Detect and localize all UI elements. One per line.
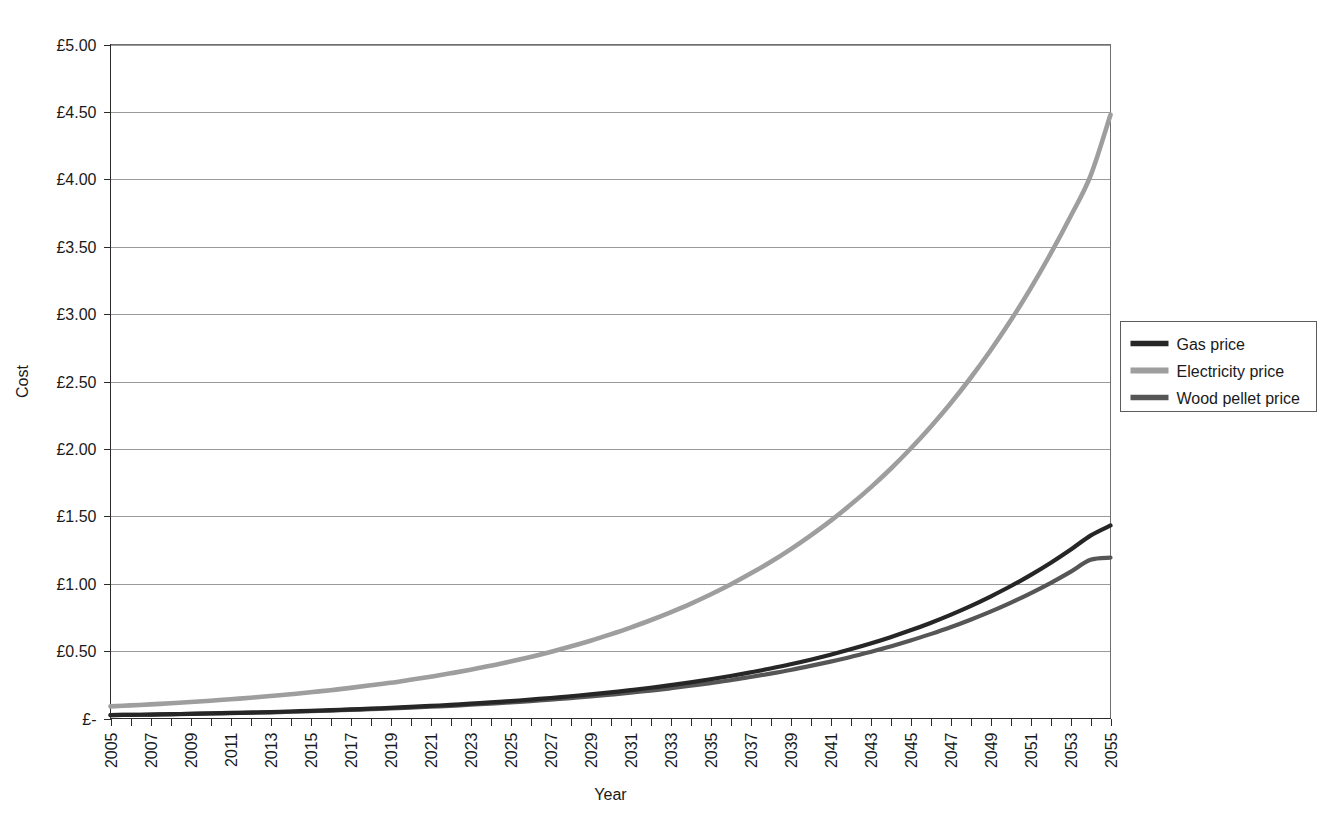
y-axis-tick-label: £4.00 bbox=[56, 171, 96, 188]
x-axis-tick-label: 2035 bbox=[703, 732, 720, 768]
x-axis-tick-label: 2037 bbox=[743, 732, 760, 768]
x-axis-tick-label: 2039 bbox=[783, 732, 800, 768]
x-axis-tick-label: 2009 bbox=[183, 732, 200, 768]
x-axis-tick-label: 2013 bbox=[263, 732, 280, 768]
x-axis-tick-label: 2025 bbox=[503, 732, 520, 768]
y-axis-tick-labels: £5.00£4.50£4.00£3.50£3.00£2.50£2.00£1.50… bbox=[56, 37, 96, 728]
x-axis-tick-label: 2043 bbox=[863, 732, 880, 768]
y-axis-title: Cost bbox=[14, 365, 31, 398]
data-series bbox=[111, 115, 1111, 715]
x-axis-tick-label: 2049 bbox=[983, 732, 1000, 768]
x-axis-tick-label: 2021 bbox=[423, 732, 440, 768]
chart-container: £5.00£4.50£4.00£3.50£3.00£2.50£2.00£1.50… bbox=[0, 0, 1329, 813]
x-axis-tick-label: 2005 bbox=[103, 732, 120, 768]
legend-label-gas-price[interactable]: Gas price bbox=[1177, 336, 1246, 353]
x-axis-tick-label: 2017 bbox=[343, 732, 360, 768]
y-axis-tick-label: £- bbox=[82, 711, 96, 728]
x-axis-title: Year bbox=[594, 786, 627, 803]
y-axis-tick-label: £3.50 bbox=[56, 239, 96, 256]
y-axis-tick-label: £1.00 bbox=[56, 576, 96, 593]
y-axis-tick-label: £3.00 bbox=[56, 306, 96, 323]
x-axis-tick-label: 2029 bbox=[583, 732, 600, 768]
x-axis-tick-label: 2047 bbox=[943, 732, 960, 768]
y-axis-tick-label: £5.00 bbox=[56, 37, 96, 54]
x-axis-tick-label: 2027 bbox=[543, 732, 560, 768]
series-line-gas-price bbox=[111, 525, 1111, 715]
y-axis-tick-label: £1.50 bbox=[56, 508, 96, 525]
axis-lines bbox=[111, 44, 1111, 719]
y-axis-tick-label: £2.50 bbox=[56, 374, 96, 391]
legend-label-wood-pellet-price[interactable]: Wood pellet price bbox=[1177, 390, 1300, 407]
y-axis-tick-label: £2.00 bbox=[56, 441, 96, 458]
series-line-electricity-price bbox=[111, 115, 1111, 707]
x-axis-tick-label: 2015 bbox=[303, 732, 320, 768]
line-chart: £5.00£4.50£4.00£3.50£3.00£2.50£2.00£1.50… bbox=[0, 0, 1329, 813]
x-axis-tick-label: 2053 bbox=[1063, 732, 1080, 768]
legend-label-electricity-price[interactable]: Electricity price bbox=[1177, 363, 1285, 380]
x-axis-tick-label: 2011 bbox=[223, 732, 240, 767]
x-axis-tick-label: 2045 bbox=[903, 732, 920, 768]
x-axis-tick-label: 2019 bbox=[383, 732, 400, 768]
plot-area-border bbox=[111, 45, 1111, 719]
x-axis-tick-labels: 2005200720092011201320152017201920212023… bbox=[103, 732, 1120, 768]
x-axis-tick-label: 2041 bbox=[823, 732, 840, 768]
gridlines bbox=[111, 45, 1111, 719]
chart-legend: Gas priceElectricity priceWood pellet pr… bbox=[1121, 322, 1317, 412]
x-axis-tick-label: 2023 bbox=[463, 732, 480, 768]
x-axis-tick-label: 2051 bbox=[1023, 732, 1040, 768]
y-axis-tick-label: £4.50 bbox=[56, 104, 96, 121]
x-axis-tick-label: 2007 bbox=[143, 732, 160, 768]
y-axis-tick-label: £0.50 bbox=[56, 643, 96, 660]
x-axis-tick-label: 2033 bbox=[663, 732, 680, 768]
x-axis-tick-label: 2055 bbox=[1103, 732, 1120, 768]
x-axis-tick-label: 2031 bbox=[623, 732, 640, 768]
